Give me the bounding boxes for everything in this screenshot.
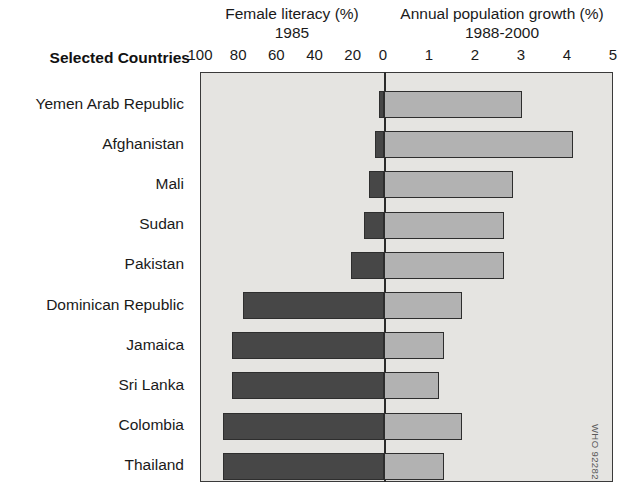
category-label: Thailand (125, 456, 184, 474)
category-label: Colombia (119, 416, 184, 434)
bar-population-growth (384, 453, 444, 480)
right-axis-title-main: Annual population growth (%) (387, 4, 617, 23)
bar-population-growth (384, 292, 462, 319)
category-label: Afghanistan (102, 135, 184, 153)
bar-female-literacy (232, 332, 384, 359)
category-label: Sudan (139, 215, 184, 233)
category-label: Yemen Arab Republic (36, 95, 185, 113)
category-label: Pakistan (125, 255, 184, 273)
bar-population-growth (384, 131, 573, 158)
bar-population-growth (384, 332, 444, 359)
bar-population-growth (384, 212, 504, 239)
axis-tick-40: 40 (306, 46, 323, 64)
bar-female-literacy (369, 171, 384, 198)
selected-countries-heading: Selected Countries (0, 49, 190, 67)
axis-tick-2: 2 (471, 46, 479, 64)
left-axis-title-main: Female literacy (%) (197, 4, 387, 23)
bar-female-literacy (364, 212, 384, 239)
bar-population-growth (384, 372, 439, 399)
axis-tick-100: 100 (187, 46, 212, 64)
axis-tick-4: 4 (563, 46, 571, 64)
axis-tick-3: 3 (517, 46, 525, 64)
bar-female-literacy (375, 131, 384, 158)
category-label: Jamaica (126, 336, 184, 354)
axis-tick-60: 60 (268, 46, 285, 64)
left-axis-title: Female literacy (%) 1985 (197, 4, 387, 42)
bar-female-literacy (351, 252, 384, 279)
bar-population-growth (384, 413, 462, 440)
chart-header: Female literacy (%) 1985 Annual populati… (0, 4, 624, 48)
axis-tick-0: 0 (379, 46, 387, 64)
bar-female-literacy (223, 453, 384, 480)
bar-population-growth (384, 91, 522, 118)
bar-female-literacy (223, 413, 384, 440)
category-label-column: Yemen Arab RepublicAfghanistanMaliSudanP… (0, 70, 192, 490)
bar-female-literacy (243, 292, 384, 319)
right-axis-title: Annual population growth (%) 1988-2000 (387, 4, 617, 42)
plot-area (200, 72, 613, 482)
bar-population-growth (384, 252, 504, 279)
bidirectional-bar-chart: Female literacy (%) 1985 Annual populati… (0, 0, 624, 496)
left-axis-title-sub: 1985 (197, 23, 387, 42)
who-credit-label: WHO 92282 (590, 424, 601, 480)
axis-tick-5: 5 (609, 46, 617, 64)
right-axis-title-sub: 1988-2000 (387, 23, 617, 42)
axis-tick-20: 20 (344, 46, 361, 64)
category-label: Dominican Republic (46, 296, 184, 314)
bar-population-growth (384, 171, 513, 198)
axis-tick-1: 1 (425, 46, 433, 64)
axis-tick-80: 80 (230, 46, 247, 64)
category-label: Sri Lanka (119, 376, 184, 394)
category-label: Mali (156, 175, 184, 193)
bar-female-literacy (232, 372, 384, 399)
